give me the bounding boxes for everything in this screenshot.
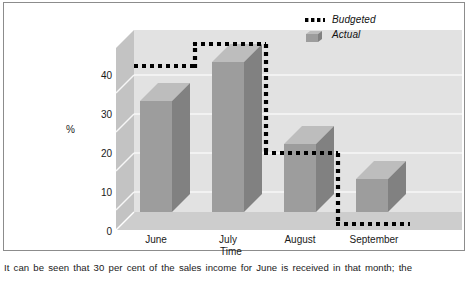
figure-page: Budgeted Actual 0 10 20 30 40 % June: [0, 0, 468, 281]
chart-floor: [116, 212, 462, 230]
y-tick-40: 40: [86, 70, 112, 81]
bar-july-side: [244, 44, 262, 212]
dotted-line-icon: [304, 14, 326, 25]
bar-swatch-icon: [304, 29, 326, 40]
legend-item-budgeted[interactable]: Budgeted: [304, 12, 422, 27]
y-tick-0: 0: [86, 226, 112, 237]
x-tick-august: August: [265, 234, 335, 245]
figure-caption: It can be seen that 30 per cent of the s…: [4, 262, 462, 274]
bar-july-front: [212, 62, 244, 212]
bar-july[interactable]: [212, 44, 262, 212]
x-axis-label: Time: [0, 246, 462, 257]
y-tick-20: 20: [86, 148, 112, 159]
legend-item-actual[interactable]: Actual: [304, 27, 422, 42]
x-tick-june: June: [121, 234, 191, 245]
bar-june-front: [140, 101, 172, 212]
bar-june[interactable]: [140, 83, 190, 212]
bar-september-front: [356, 179, 388, 212]
x-tick-september: September: [337, 234, 411, 245]
chart-legend: Budgeted Actual: [304, 12, 422, 44]
y-tick-10: 10: [86, 187, 112, 198]
x-tick-july: July: [193, 234, 263, 245]
legend-label-budgeted: Budgeted: [332, 14, 376, 25]
legend-label-actual: Actual: [332, 29, 360, 40]
bar-august[interactable]: [284, 126, 334, 212]
y-axis-label: %: [66, 124, 75, 135]
bar-june-side: [172, 83, 190, 212]
y-tick-30: 30: [86, 109, 112, 120]
chart-figure-frame: Budgeted Actual 0 10 20 30 40 % June: [3, 2, 465, 251]
